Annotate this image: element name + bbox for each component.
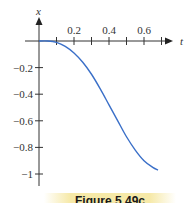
x-tick-label: 0.6 xyxy=(137,24,151,36)
x-axis-arrow-icon xyxy=(165,38,173,45)
caption-band: Figure 5.49c xyxy=(44,193,176,203)
y-tick-label: −0.2 xyxy=(13,62,33,74)
y-tick-label: −1 xyxy=(21,168,33,180)
y-tick-label: −0.4 xyxy=(13,88,33,100)
x-axis-label: t xyxy=(180,35,184,47)
chart: x t 0.20.40.6 −0.2−0.4−0.6−0.8−1 xyxy=(0,0,188,203)
y-tick-label: −0.6 xyxy=(13,115,33,127)
y-axis-arrow-icon xyxy=(36,17,43,25)
x-tick-label: 0.4 xyxy=(102,24,116,36)
x-ticks: 0.20.40.6 xyxy=(57,24,162,45)
x-tick-label: 0.2 xyxy=(67,24,81,36)
figure-caption: Figure 5.49c xyxy=(44,194,176,203)
y-tick-label: −0.8 xyxy=(13,141,33,153)
y-axis-label: x xyxy=(35,5,41,17)
data-line xyxy=(39,41,158,170)
